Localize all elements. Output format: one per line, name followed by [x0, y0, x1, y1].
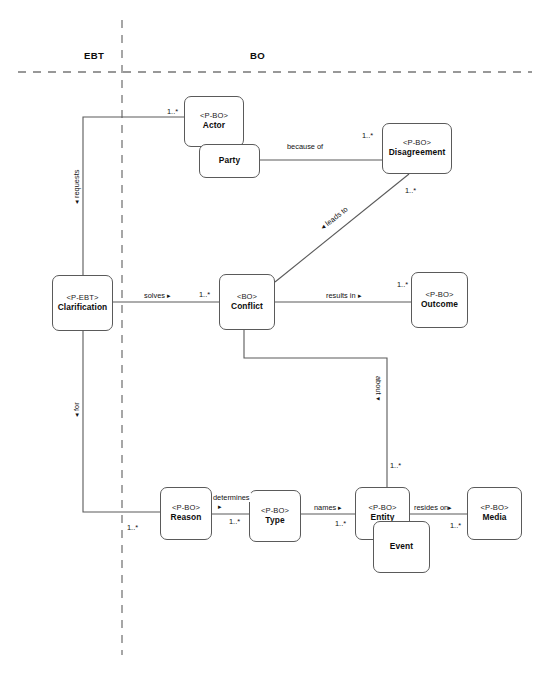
clarification-requests-actor	[83, 117, 184, 275]
mult-actor: 1..*	[166, 107, 179, 116]
zone-label-ebt: EBT	[84, 50, 104, 61]
mult-media: 1..*	[449, 521, 462, 530]
class-node-event[interactable]: Event	[373, 521, 430, 573]
label-determines: determines	[212, 493, 251, 502]
conflict-about-entity	[244, 330, 387, 487]
label-results-in: results in ▸	[325, 291, 363, 300]
label-solves: solves ▸	[143, 291, 172, 300]
class-name-clarification: Clarification	[58, 303, 108, 313]
class-node-party[interactable]: Party	[199, 144, 260, 178]
class-node-clarification[interactable]: <P-EBT>Clarification	[52, 275, 113, 331]
divider-group	[18, 20, 532, 655]
label-requests: ◂ requests	[72, 169, 81, 205]
class-node-reason[interactable]: <P-BO>Reason	[160, 487, 212, 540]
class-node-outcome[interactable]: <P-BO>Outcome	[411, 272, 468, 328]
mult-reason: 1..*	[126, 523, 139, 532]
class-name-event: Event	[390, 542, 413, 552]
class-name-media: Media	[482, 513, 506, 523]
edge-group	[83, 117, 467, 514]
class-name-actor: Actor	[203, 121, 225, 131]
class-name-conflict: Conflict	[231, 302, 263, 312]
mult-conflict: 1..*	[198, 290, 211, 299]
uml-class-diagram: EBTBO <P-BO>ActorParty<P-BO>Disagreement…	[0, 0, 546, 674]
label-determines-arrow: ▸	[217, 502, 223, 511]
mult-about: 1..*	[389, 461, 402, 470]
class-node-type[interactable]: <P-BO>Type	[249, 490, 301, 542]
mult-entity: 1..*	[334, 519, 347, 528]
mult-type: 1..*	[228, 517, 241, 526]
label-names: names ▸	[313, 503, 343, 512]
class-name-disagreement: Disagreement	[389, 148, 446, 158]
mult-outcome: 1..*	[396, 280, 409, 289]
edge-layer	[0, 0, 546, 674]
class-node-conflict[interactable]: <BO>Conflict	[219, 274, 275, 330]
label-resides-on: resides on▸	[413, 503, 453, 512]
mult-leads-to: 1..*	[404, 186, 417, 195]
mult-disagreement: 1..*	[361, 131, 374, 140]
zone-label-bo: BO	[250, 50, 265, 61]
clarification-for-reason	[83, 331, 160, 512]
class-name-outcome: Outcome	[421, 300, 458, 310]
label-about: about ▾	[374, 375, 383, 402]
class-name-party: Party	[219, 156, 240, 166]
class-node-actor[interactable]: <P-BO>Actor	[184, 96, 244, 147]
label-because-of: because of	[286, 142, 324, 151]
class-node-disagreement[interactable]: <P-BO>Disagreement	[382, 123, 452, 174]
class-node-media[interactable]: <P-BO>Media	[467, 487, 522, 540]
disagreement-leads-to-conflict	[275, 174, 409, 282]
class-name-reason: Reason	[171, 513, 202, 523]
class-name-type: Type	[265, 516, 284, 526]
label-for: ◂ for	[72, 401, 81, 418]
